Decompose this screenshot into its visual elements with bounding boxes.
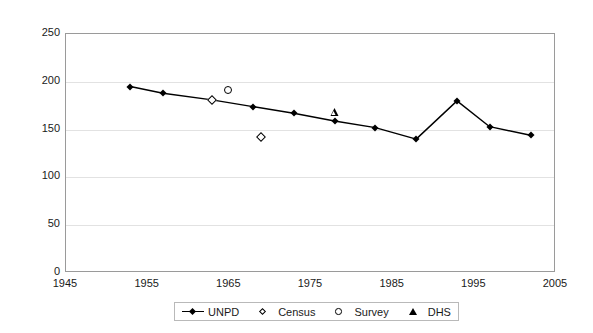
dhs-point <box>330 108 338 116</box>
y-tick-label: 150 <box>6 123 60 134</box>
gridline-200 <box>66 82 554 83</box>
x-tick-label: 1955 <box>117 277 177 289</box>
gridline-50 <box>66 225 554 226</box>
line-marker-icon <box>182 306 204 318</box>
open-circle-icon <box>328 306 350 318</box>
legend-label: DHS <box>428 306 451 318</box>
survey-point <box>224 86 232 94</box>
y-tick-label: 250 <box>6 27 60 38</box>
x-tick-label: 2005 <box>525 277 585 289</box>
legend-entry-survey: Survey <box>328 306 388 318</box>
x-tick-label: 1965 <box>198 277 258 289</box>
x-tick-label: 1975 <box>280 277 340 289</box>
chart-container: 250 200 150 100 50 0 1945 1955 1965 1975… <box>0 0 593 333</box>
legend-entry-dhs: DHS <box>402 306 451 318</box>
plot-area <box>65 33 555 272</box>
y-tick-label: 0 <box>6 266 60 277</box>
y-tick-label: 100 <box>6 170 60 181</box>
open-triangle-icon <box>402 306 424 318</box>
legend-label: UNPD <box>208 306 239 318</box>
gridline-150 <box>66 130 554 131</box>
x-tick-label: 1985 <box>362 277 422 289</box>
x-tick-label: 1995 <box>443 277 503 289</box>
y-tick-label: 50 <box>6 218 60 229</box>
legend-label: Survey <box>354 306 388 318</box>
legend-label: Census <box>278 306 315 318</box>
x-axis-ticks: 1945 1955 1965 1975 1985 1995 2005 <box>0 277 593 293</box>
x-tick-label: 1945 <box>35 277 95 289</box>
y-tick-label: 200 <box>6 75 60 86</box>
legend-entry-census: Census <box>252 306 315 318</box>
chart-legend: UNPD Census Survey DHS <box>174 302 459 321</box>
legend-entry-unpd: UNPD <box>182 306 239 318</box>
open-diamond-icon <box>252 306 274 318</box>
gridline-100 <box>66 177 554 178</box>
